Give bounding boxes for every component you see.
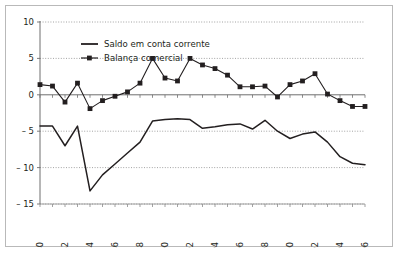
y-tick-label: 5 bbox=[29, 53, 34, 63]
y-tick-label: – 5 bbox=[22, 126, 34, 136]
data-point-marker bbox=[88, 106, 93, 111]
data-point-marker bbox=[63, 100, 68, 105]
x-tick-label: 1986 bbox=[110, 242, 120, 248]
chart-plot-area: 1050– 5– 10– 151980198219841986198819901… bbox=[6, 6, 394, 248]
y-tick-label: – 10 bbox=[16, 163, 34, 173]
x-tick-label: 1982 bbox=[60, 242, 70, 248]
data-point-marker bbox=[363, 104, 368, 109]
y-tick-label: 0 bbox=[29, 90, 34, 100]
y-tick-label: – 15 bbox=[16, 199, 34, 209]
data-point-marker bbox=[275, 95, 280, 100]
x-tick-label: 1990 bbox=[160, 242, 170, 248]
data-point-marker bbox=[238, 84, 243, 89]
x-tick-label: 1984 bbox=[85, 242, 95, 248]
chart-figure: 1050– 5– 10– 151980198219841986198819901… bbox=[5, 5, 393, 247]
data-point-marker bbox=[100, 98, 105, 103]
x-tick-label: 2000 bbox=[285, 242, 295, 248]
data-point-marker bbox=[125, 89, 130, 94]
y-tick-label: 10 bbox=[23, 17, 34, 27]
data-point-marker bbox=[225, 73, 230, 78]
data-point-marker bbox=[313, 71, 318, 76]
data-point-marker bbox=[113, 94, 118, 99]
data-point-marker bbox=[75, 81, 80, 86]
x-tick-label: 2006 bbox=[360, 242, 370, 248]
data-point-marker bbox=[200, 63, 205, 68]
x-tick-label: 1988 bbox=[135, 242, 145, 248]
data-point-marker bbox=[288, 82, 293, 87]
data-point-marker bbox=[300, 79, 305, 84]
data-point-marker bbox=[325, 92, 330, 97]
data-point-marker bbox=[350, 104, 355, 109]
gridlines bbox=[40, 22, 365, 204]
legend-label-saldo: Saldo em conta corrente bbox=[104, 39, 210, 49]
data-point-marker bbox=[163, 76, 168, 81]
legend-label-balanca: Balança comercial bbox=[104, 53, 183, 63]
data-point-marker bbox=[38, 82, 43, 87]
chart-svg: 1050– 5– 10– 151980198219841986198819901… bbox=[6, 6, 394, 248]
data-point-marker bbox=[50, 84, 55, 89]
y-tick-labels: 1050– 5– 10– 15 bbox=[16, 17, 40, 209]
x-ticks bbox=[40, 95, 365, 207]
data-point-marker bbox=[138, 81, 143, 86]
x-tick-label: 1994 bbox=[210, 242, 220, 248]
data-point-marker bbox=[175, 79, 180, 84]
series-saldo-em-conta-corrente bbox=[40, 119, 365, 191]
series-balanca-comercial bbox=[38, 56, 368, 111]
x-tick-label: 1980 bbox=[35, 242, 45, 248]
x-tick-label: 2002 bbox=[310, 242, 320, 248]
legend-swatch-marker bbox=[87, 56, 92, 61]
data-point-marker bbox=[250, 84, 255, 89]
x-tick-label: 1998 bbox=[260, 242, 270, 248]
data-point-marker bbox=[338, 98, 343, 103]
series-line bbox=[40, 119, 365, 191]
x-tick-labels: 1980198219841986198819901992199419961998… bbox=[35, 242, 370, 248]
x-tick-label: 1996 bbox=[235, 242, 245, 248]
x-tick-label: 1992 bbox=[185, 242, 195, 248]
data-point-marker bbox=[263, 84, 268, 89]
data-point-marker bbox=[213, 66, 218, 71]
data-point-marker bbox=[188, 56, 193, 61]
x-tick-label: 2004 bbox=[335, 242, 345, 248]
